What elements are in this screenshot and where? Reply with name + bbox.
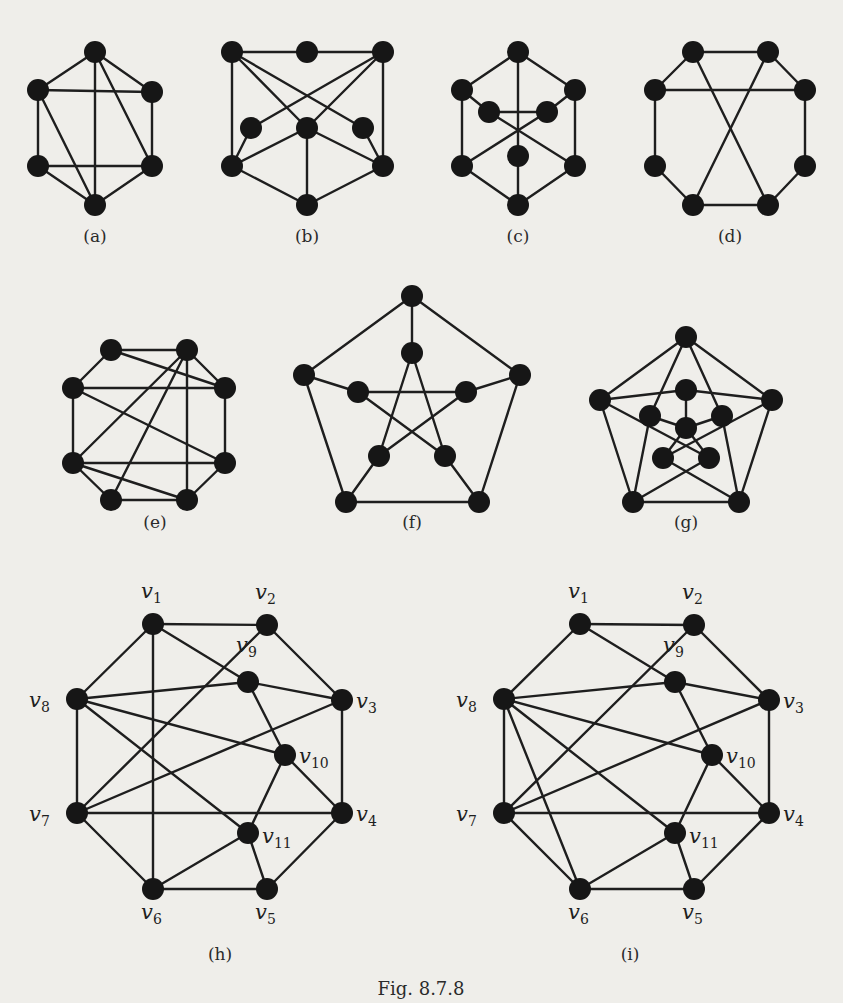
graph-vertex <box>221 155 243 177</box>
subfigure-label: (c) <box>507 226 530 246</box>
graph-vertex <box>698 447 720 469</box>
vertex-label: v6 <box>141 900 162 927</box>
graph-edge <box>307 166 383 205</box>
graph-vertex <box>682 41 704 63</box>
graph-vertex <box>293 364 315 386</box>
subfigure-label: (g) <box>674 512 698 532</box>
graph-vertex <box>675 326 697 348</box>
subfigure-label: (d) <box>718 226 742 246</box>
subfigure-label: (h) <box>208 944 232 964</box>
graph-edge <box>73 388 225 463</box>
vertex-label: v5 <box>682 900 703 927</box>
graph-vertex <box>214 377 236 399</box>
graph-edge <box>504 699 712 755</box>
graph-vertex <box>639 405 661 427</box>
graph-vertex <box>296 41 318 63</box>
graph-vertex <box>401 285 423 307</box>
vertex-label: v6 <box>568 900 589 927</box>
graph-edge <box>153 833 248 889</box>
vertex-label: v7 <box>456 802 477 829</box>
graph-vertex <box>675 379 697 401</box>
graphs-layer: (a)(b)(c)(d)(e)(f)(g)v1v2v3v4v5v6v7v8v9v… <box>27 41 816 964</box>
graph-edge <box>504 624 580 699</box>
graph-vertex <box>758 689 780 711</box>
vertex-label: v4 <box>356 802 377 829</box>
graph-vertex <box>214 452 236 474</box>
graph-edge <box>412 353 445 456</box>
graph-vertex <box>507 41 529 63</box>
graph-vertex <box>478 101 500 123</box>
graph-vertex <box>62 377 84 399</box>
vertex-label: v1 <box>141 579 162 606</box>
graph-vertex <box>644 79 666 101</box>
graph-a: (a) <box>27 41 163 246</box>
vertex-label: v8 <box>456 688 477 715</box>
graph-vertex <box>372 155 394 177</box>
vertex-label: v2 <box>682 580 703 607</box>
graph-vertex <box>84 41 106 63</box>
graph-vertex <box>142 878 164 900</box>
graph-g: (g) <box>589 326 783 532</box>
graph-d: (d) <box>644 41 816 246</box>
graph-edge <box>38 90 95 205</box>
graph-vertex <box>451 79 473 101</box>
graph-vertex <box>347 381 369 403</box>
graph-edge <box>504 682 675 699</box>
graph-edge <box>675 682 712 755</box>
vertex-label: v11 <box>689 824 719 851</box>
graph-vertex <box>564 155 586 177</box>
graph-edge <box>580 624 675 682</box>
graph-edge <box>580 624 694 625</box>
graph-vertex <box>761 389 783 411</box>
graph-vertex <box>176 339 198 361</box>
graph-vertex <box>27 155 49 177</box>
graph-vertex <box>27 79 49 101</box>
graph-vertex <box>701 744 723 766</box>
graph-vertex <box>335 491 357 513</box>
graph-vertex <box>100 339 122 361</box>
graph-vertex <box>62 452 84 474</box>
graph-vertex <box>401 342 423 364</box>
graph-vertex <box>84 194 106 216</box>
graph-vertex <box>664 671 686 693</box>
graph-vertex <box>296 194 318 216</box>
graph-vertex <box>652 447 674 469</box>
graph-vertex <box>434 445 456 467</box>
graph-edge <box>379 353 412 456</box>
subfigure-label: (i) <box>621 944 640 964</box>
graph-edge <box>358 392 445 456</box>
subfigure-label: (b) <box>295 226 319 246</box>
graph-h: v1v2v3v4v5v6v7v8v9v10v11(h) <box>29 579 377 964</box>
graph-vertex <box>794 155 816 177</box>
graph-vertex <box>507 194 529 216</box>
graph-edge <box>77 813 153 889</box>
subfigure-label: (a) <box>83 226 106 246</box>
graph-vertex <box>372 41 394 63</box>
graph-edge <box>379 392 466 456</box>
graph-vertex <box>237 822 259 844</box>
graph-vertex <box>675 417 697 439</box>
vertex-label: v2 <box>255 580 276 607</box>
graph-vertex <box>468 491 490 513</box>
vertex-label: v10 <box>726 744 756 771</box>
vertex-label: v3 <box>356 689 377 716</box>
vertex-label: v4 <box>783 802 804 829</box>
graph-vertex <box>644 155 666 177</box>
vertex-label: v10 <box>299 744 329 771</box>
graph-vertex <box>256 878 278 900</box>
graph-vertex <box>589 389 611 411</box>
graph-vertex <box>493 688 515 710</box>
graph-edge <box>248 682 285 755</box>
graph-vertex <box>66 802 88 824</box>
graph-edge <box>232 166 307 205</box>
graph-vertex <box>711 405 733 427</box>
graph-vertex <box>352 117 374 139</box>
graph-edge <box>77 699 285 755</box>
vertex-label: v7 <box>29 802 50 829</box>
graph-edge <box>153 624 248 682</box>
graph-c: (c) <box>451 41 586 246</box>
graph-edge <box>633 416 650 502</box>
graph-vertex <box>221 41 243 63</box>
graph-edge <box>580 833 675 889</box>
graph-edge <box>304 296 412 375</box>
